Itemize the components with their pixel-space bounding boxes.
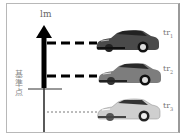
axis-label: lm bbox=[40, 10, 51, 19]
tr2-label-text: tr bbox=[163, 64, 170, 73]
tr1-label: tr1 bbox=[163, 28, 173, 41]
tr1-label-text: tr bbox=[163, 28, 170, 37]
tr3-label: tr3 bbox=[163, 101, 173, 114]
tr2-label: tr2 bbox=[163, 64, 173, 77]
arrow-up-icon bbox=[36, 25, 52, 38]
reference-char-3: 点 bbox=[14, 88, 24, 97]
car-tr1-icon bbox=[97, 30, 159, 53]
tr2-label-sub: 2 bbox=[170, 69, 173, 75]
tr1-label-sub: 1 bbox=[170, 33, 173, 39]
tr3-label-sub: 3 bbox=[170, 106, 173, 112]
reference-char-2: 準 bbox=[14, 79, 24, 88]
reference-point-label: 基 準 点 bbox=[14, 70, 24, 97]
tr3-label-text: tr bbox=[163, 101, 170, 110]
reference-char-1: 基 bbox=[14, 70, 24, 79]
diagram-canvas bbox=[0, 0, 185, 135]
car-tr3-icon bbox=[98, 99, 160, 122]
car-tr2-icon bbox=[99, 63, 161, 86]
